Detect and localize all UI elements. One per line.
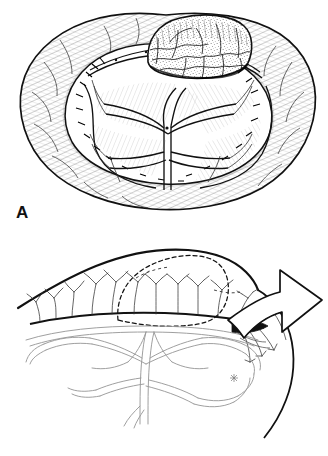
panel-a-illustration: [0, 0, 328, 228]
panel-b: B: [0, 228, 328, 456]
panel-a-label: A: [16, 204, 28, 221]
traction-arrow: [228, 270, 322, 338]
vessel-marker: [230, 374, 238, 382]
figure-root: A: [0, 0, 328, 456]
bowel-wall: [18, 250, 264, 328]
panel-a: A: [0, 0, 328, 228]
mesenteric-vessel-tree: [26, 326, 261, 428]
panel-b-illustration: [0, 228, 328, 456]
